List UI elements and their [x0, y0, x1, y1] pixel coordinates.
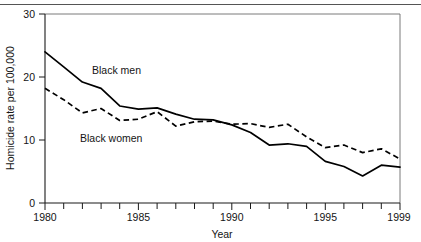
x-tick-label-1990: 1990 — [220, 211, 244, 223]
x-axis-minor-ticks — [64, 203, 382, 209]
x-tick-label-1980: 1980 — [33, 211, 57, 223]
plot-frame-border — [45, 14, 400, 203]
x-axis-major-ticks — [45, 203, 400, 210]
black-women-label: Black women — [80, 132, 143, 144]
x-tick-label-1999: 1999 — [387, 211, 411, 223]
y-tick-label-20: 20 — [23, 71, 35, 83]
x-tick-label-1985: 1985 — [127, 211, 151, 223]
chart-figure: 30 20 10 0 — [0, 0, 421, 242]
chart-plot-area: 30 20 10 0 — [0, 0, 421, 242]
y-tick-label-30: 30 — [23, 8, 35, 20]
y-tick-label-0: 0 — [29, 197, 35, 209]
y-axis-ticks — [39, 14, 45, 203]
series-line-black-women — [45, 88, 400, 159]
chart-svg: 30 20 10 0 — [0, 0, 421, 242]
y-axis-title: Homicide rate per 100,000 — [4, 46, 16, 170]
x-axis-title: Year — [211, 228, 233, 240]
x-tick-label-1995: 1995 — [314, 211, 338, 223]
y-tick-label-10: 10 — [23, 134, 35, 146]
black-men-label: Black men — [92, 64, 141, 76]
